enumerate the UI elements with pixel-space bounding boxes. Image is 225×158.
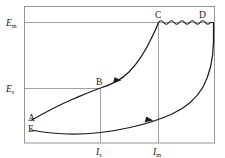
y-axis-label-em: Em xyxy=(5,18,17,29)
curve-svg: Em Es Is Im A E B C D xyxy=(0,0,225,158)
x-axis-label-is-sub: s xyxy=(99,151,102,158)
y-axis-label-em-sub: m xyxy=(12,22,17,29)
plot-frame xyxy=(25,7,215,144)
x-axis-label-im-sub: m xyxy=(156,151,161,158)
arrow-upper-branch xyxy=(113,77,121,83)
point-label-c: C xyxy=(155,10,161,20)
curve-abc xyxy=(31,23,159,121)
point-label-d: D xyxy=(199,10,206,20)
point-label-e: E xyxy=(28,124,34,134)
characteristic-curve-figure: Em Es Is Im A E B C D xyxy=(0,0,225,158)
x-axis-label-im: Im xyxy=(152,147,161,158)
y-axis-label-es: Es xyxy=(5,84,15,95)
x-axis-label-is: Is xyxy=(95,147,102,158)
y-axis-label-es-sub: s xyxy=(12,88,15,95)
point-label-b: B xyxy=(96,77,102,87)
point-label-a: A xyxy=(28,113,35,123)
